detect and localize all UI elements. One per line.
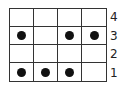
- row-label: 3: [110, 27, 118, 46]
- grid-cell: [82, 9, 106, 27]
- dot-marker: [17, 31, 26, 40]
- grid-cell: [10, 27, 34, 45]
- grid-cell: [58, 9, 82, 27]
- dot-marker: [65, 68, 74, 77]
- row-labels: 4321: [110, 8, 118, 82]
- dot-grid: [9, 8, 107, 82]
- dot-marker: [90, 31, 99, 40]
- grid-cell: [82, 27, 106, 45]
- grid-cell: [58, 27, 82, 45]
- row-label: 1: [110, 64, 118, 83]
- dot-marker: [41, 68, 50, 77]
- grid-cell: [34, 63, 58, 81]
- grid-cell: [82, 63, 106, 81]
- grid-cell: [82, 45, 106, 63]
- row-label: 4: [110, 8, 118, 27]
- dot-marker: [65, 31, 74, 40]
- grid-cell: [10, 45, 34, 63]
- grid-cell: [34, 9, 58, 27]
- grid-cell: [34, 27, 58, 45]
- grid-cell: [58, 45, 82, 63]
- row-label: 2: [110, 45, 118, 64]
- grid-cell: [34, 45, 58, 63]
- grid-cell: [10, 9, 34, 27]
- dot-marker: [17, 68, 26, 77]
- grid-cell: [10, 63, 34, 81]
- grid-cell: [58, 63, 82, 81]
